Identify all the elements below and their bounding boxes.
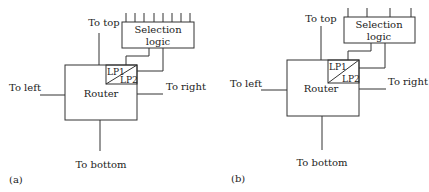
router-label-a: Router [84, 88, 119, 99]
lp2-label-a: LP2 [120, 75, 138, 85]
connector-lp2-a [137, 48, 163, 71]
selection-label-line1-a: Selection [134, 24, 182, 35]
to-right-label-b: To right [388, 76, 428, 87]
selection-inputs-b [348, 8, 411, 17]
connector-lp1-a [126, 48, 149, 65]
to-top-label-b: To top [305, 13, 337, 24]
diagram-canvas: Selection logic LP1 LP2 Router To top To… [0, 0, 429, 192]
connector-lp2-b [359, 43, 385, 68]
selection-label-line2-b: logic [367, 31, 392, 42]
to-bottom-label-a: To bottom [75, 159, 127, 170]
connector-lp1-b [348, 43, 371, 60]
router-label-b: Router [304, 83, 339, 94]
lp1-label-b: LP1 [329, 62, 347, 72]
to-right-label-a: To right [166, 81, 206, 92]
to-bottom-label-b: To bottom [296, 157, 348, 168]
caption-a: (a) [9, 174, 23, 185]
to-top-label-a: To top [88, 17, 120, 28]
selection-inputs-a [126, 13, 190, 22]
to-left-label-a: To left [9, 82, 41, 93]
selection-label-line1-b: Selection [355, 19, 403, 30]
selection-label-line2-a: logic [146, 36, 171, 47]
lp2-label-b: LP2 [342, 74, 360, 84]
to-left-label-b: To left [230, 78, 262, 89]
caption-b: (b) [231, 173, 245, 184]
